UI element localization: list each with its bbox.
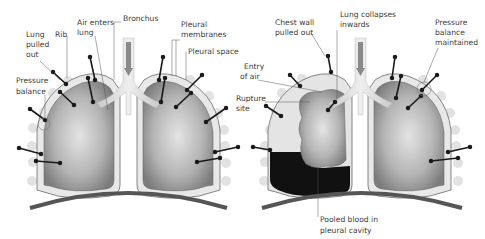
label-lung-pulled-out-1: Lung [26, 30, 45, 39]
label-lung-pulled-out-2: pulled [26, 40, 50, 49]
label-pressure-balance-1: Pressure [16, 76, 49, 85]
label-pleural-space: Pleural space [188, 47, 239, 56]
label-pleural-membranes-1: Pleural [181, 20, 207, 29]
label-pressure-maintained-1: Pressure [435, 18, 468, 27]
pneumothorax-diagram: Lung pulled out Rib Air enters lung Bron… [0, 0, 485, 239]
label-bronchus: Bronchus [123, 14, 158, 23]
right-chest [253, 38, 470, 208]
label-rupture-site-1: Rupture [236, 94, 266, 103]
label-pressure-balance-2: balance [16, 87, 46, 96]
label-chest-wall-1: Chest wall [275, 18, 314, 27]
left-chest [19, 38, 238, 208]
label-pressure-maintained-2: balance [435, 28, 465, 37]
label-entry-of-air-1: Entry [244, 62, 265, 71]
label-chest-wall-2: pulled out [275, 28, 313, 37]
label-rib: Rib [55, 30, 67, 39]
label-pressure-maintained-3: maintained [435, 38, 478, 47]
label-rupture-site-2: site [236, 104, 250, 113]
label-air-enters-1: Air enters [77, 18, 114, 27]
label-pooled-blood-2: pleural cavity [320, 226, 372, 235]
label-pleural-membranes-2: membranes [181, 30, 227, 39]
label-lung-collapses-1: Lung collapses [340, 10, 396, 19]
label-lung-collapses-2: inwards [340, 20, 370, 29]
label-air-enters-2: lung [77, 28, 94, 37]
label-lung-pulled-out-3: out [26, 50, 38, 59]
label-pooled-blood-1: Pooled blood in [320, 215, 378, 224]
label-entry-of-air-2: of air [240, 72, 260, 81]
